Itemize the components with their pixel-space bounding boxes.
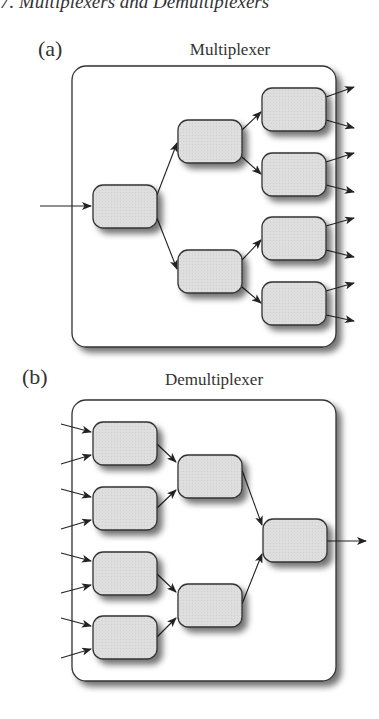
demultiplexer-diagram: [61, 400, 366, 681]
demux-node-l0-2: [93, 487, 157, 530]
demux-node-l0-4: [93, 616, 157, 659]
mux-node-l1-top: [178, 120, 242, 163]
mux-node-root: [93, 185, 157, 228]
mux-node-l2-4: [262, 282, 326, 325]
mux-node-l2-2: [262, 153, 326, 196]
mux-node-l1-bottom: [178, 250, 242, 293]
mux-node-l2-3: [262, 217, 326, 260]
demux-node-l1-bottom: [178, 584, 242, 627]
mux-node-l2-1: [262, 88, 326, 131]
multiplexer-diagram: [40, 66, 354, 347]
demux-node-l0-3: [93, 552, 157, 595]
demux-node-l0-1: [93, 422, 157, 465]
diagram-canvas: [0, 0, 379, 719]
demux-node-root: [263, 519, 327, 562]
demux-node-l1-top: [178, 455, 242, 498]
